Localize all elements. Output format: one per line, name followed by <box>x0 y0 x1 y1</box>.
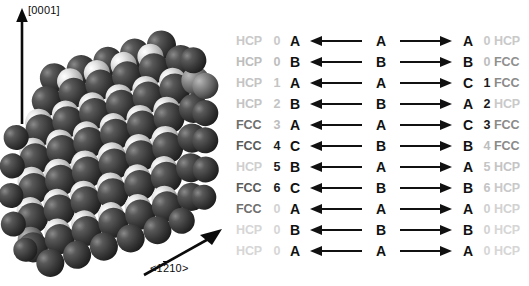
right-phase-label: HCP <box>494 202 528 216</box>
left-layer-letter: A <box>284 201 306 217</box>
left-phase-label: HCP <box>236 76 270 90</box>
right-phase-label: FCC <box>494 139 528 153</box>
right-layer-letter: B <box>456 54 480 70</box>
stacking-row: HCP0BBB0FCC <box>236 51 529 72</box>
right-layer-letter: B <box>456 138 480 154</box>
right-layer-letter: A <box>456 96 480 112</box>
stacking-row: FCC4CBB4FCC <box>236 135 529 156</box>
right-arrow-icon <box>398 203 452 215</box>
mid-layer-letter: A <box>368 33 394 49</box>
right-index-label: 3 <box>480 118 494 132</box>
right-arrow <box>394 182 456 194</box>
right-arrow <box>394 245 456 257</box>
left-arrow <box>306 77 368 89</box>
stacking-row: HCP5BAA5HCP <box>236 156 529 177</box>
left-layer-letter: A <box>284 75 306 91</box>
c-axis-arrow-icon <box>14 8 30 126</box>
stacking-sequence-table: HCP0AAA0HCPHCP0BBB0FCCHCP1AAC1FCCHCP2BBA… <box>236 30 529 261</box>
stacking-row: FCC0AAA0HCP <box>236 198 529 219</box>
right-arrow <box>394 77 456 89</box>
left-index-label: 0 <box>270 202 284 216</box>
left-arrow-icon <box>310 56 364 68</box>
left-phase-label: HCP <box>236 55 270 69</box>
right-layer-letter: B <box>456 180 480 196</box>
left-layer-letter: B <box>284 222 306 238</box>
left-phase-label: HCP <box>236 223 270 237</box>
left-arrow <box>306 203 368 215</box>
right-arrow <box>394 161 456 173</box>
left-layer-letter: B <box>284 54 306 70</box>
left-phase-label: HCP <box>236 97 270 111</box>
mid-layer-letter: B <box>368 180 394 196</box>
mid-layer-letter: A <box>368 201 394 217</box>
right-arrow-icon <box>398 224 452 236</box>
right-arrow <box>394 56 456 68</box>
right-phase-label: HCP <box>494 223 528 237</box>
right-phase-label: HCP <box>494 181 528 195</box>
right-arrow-icon <box>398 161 452 173</box>
left-arrow <box>306 56 368 68</box>
left-phase-label: HCP <box>236 244 270 258</box>
left-arrow-icon <box>310 119 364 131</box>
left-layer-letter: A <box>284 243 306 259</box>
left-arrow-icon <box>310 224 364 236</box>
right-layer-letter: A <box>456 243 480 259</box>
stacking-row: FCC3AAC3FCC <box>236 114 529 135</box>
right-phase-label: HCP <box>494 97 528 111</box>
right-index-label: 1 <box>480 76 494 90</box>
right-phase-label: FCC <box>494 55 528 69</box>
left-arrow-icon <box>310 35 364 47</box>
left-index-label: 0 <box>270 223 284 237</box>
left-layer-letter: C <box>284 138 306 154</box>
right-phase-label: HCP <box>494 160 528 174</box>
left-layer-letter: B <box>284 159 306 175</box>
left-index-label: 3 <box>270 118 284 132</box>
left-phase-label: FCC <box>236 181 270 195</box>
mid-layer-letter: A <box>368 75 394 91</box>
left-arrow-icon <box>310 77 364 89</box>
right-layer-letter: A <box>456 159 480 175</box>
left-arrow-icon <box>310 98 364 110</box>
right-index-label: 5 <box>480 160 494 174</box>
left-arrow <box>306 224 368 236</box>
mid-layer-letter: A <box>368 243 394 259</box>
stacking-row: HCP1AAC1FCC <box>236 72 529 93</box>
left-arrow <box>306 98 368 110</box>
stacking-row: FCC6CBB6HCP <box>236 177 529 198</box>
mid-layer-letter: B <box>368 222 394 238</box>
right-arrow <box>394 35 456 47</box>
left-phase-label: HCP <box>236 34 270 48</box>
left-arrow-icon <box>310 161 364 173</box>
stacking-row: HCP0AAA0HCP <box>236 240 529 261</box>
mid-layer-letter: B <box>368 138 394 154</box>
right-layer-letter: A <box>456 201 480 217</box>
right-phase-label: HCP <box>494 34 528 48</box>
left-phase-label: FCC <box>236 118 270 132</box>
right-arrow <box>394 119 456 131</box>
right-arrow <box>394 98 456 110</box>
left-index-label: 5 <box>270 160 284 174</box>
left-index-label: 4 <box>270 139 284 153</box>
right-arrow-icon <box>398 119 452 131</box>
mid-layer-letter: A <box>368 117 394 133</box>
right-arrow <box>394 203 456 215</box>
left-arrow <box>306 161 368 173</box>
right-index-label: 0 <box>480 55 494 69</box>
right-layer-letter: C <box>456 75 480 91</box>
left-arrow <box>306 182 368 194</box>
right-phase-label: FCC <box>494 118 528 132</box>
left-arrow-icon <box>310 140 364 152</box>
stacking-row: HCP0AAA0HCP <box>236 30 529 51</box>
mid-layer-letter: A <box>368 159 394 175</box>
mid-layer-letter: B <box>368 54 394 70</box>
right-arrow-icon <box>398 56 452 68</box>
a-axis-label-suffix: 10> <box>169 262 188 274</box>
left-index-label: 0 <box>270 55 284 69</box>
right-layer-letter: C <box>456 117 480 133</box>
left-layer-letter: A <box>284 33 306 49</box>
left-arrow <box>306 245 368 257</box>
right-arrow-icon <box>398 35 452 47</box>
right-arrow <box>394 224 456 236</box>
crystal-model-panel: [0001] <1210> <box>0 0 232 286</box>
a-axis-label-prefix: <1 <box>150 262 163 274</box>
